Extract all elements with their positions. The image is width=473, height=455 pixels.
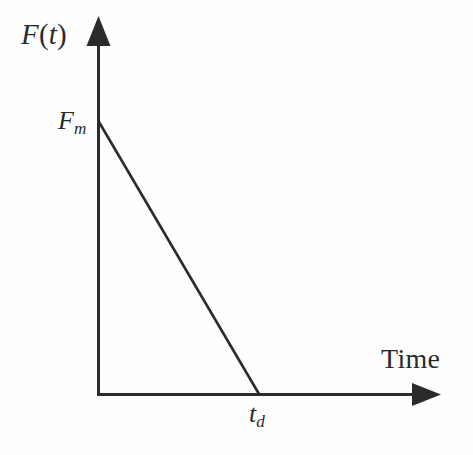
x-axis-arrowhead <box>412 383 441 406</box>
duration-label-subscript: d <box>256 412 265 431</box>
figure-root: F(t) Fm td Time <box>0 0 473 455</box>
x-axis-label: Time <box>381 345 440 373</box>
blast-load-chart <box>0 0 473 455</box>
duration-label: td <box>249 401 265 427</box>
peak-force-label: Fm <box>58 108 86 134</box>
y-axis-label-paren-close: ) <box>57 18 67 50</box>
y-axis-label-base: F <box>21 18 39 50</box>
y-axis-label: F(t) <box>21 20 67 49</box>
y-axis-arrowhead <box>87 16 111 46</box>
y-axis-label-variable: t <box>49 18 57 50</box>
peak-force-label-base: F <box>58 106 74 135</box>
force-decay-line <box>99 122 259 394</box>
y-axis-label-paren-open: ( <box>39 18 49 50</box>
peak-force-label-subscript: m <box>74 119 86 138</box>
